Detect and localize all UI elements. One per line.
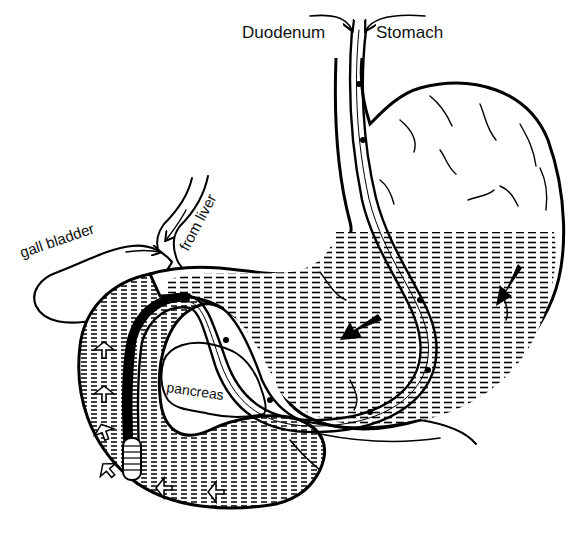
label-duodenum: Duodenum <box>242 23 325 42</box>
label-stomach: Stomach <box>376 23 443 42</box>
stomach-duodenum-diagram: Duodenum Stomach gall bladder from liver… <box>0 0 588 541</box>
tube-tip <box>123 438 141 480</box>
label-gall-bladder: gall bladder <box>17 220 96 261</box>
